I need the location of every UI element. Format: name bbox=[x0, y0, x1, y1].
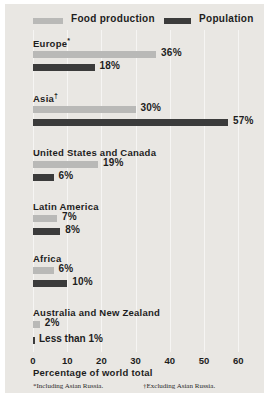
bar-value-label: 6% bbox=[59, 170, 74, 181]
x-axis-tick-10: 10 bbox=[57, 355, 77, 366]
bar-row: 36% bbox=[33, 51, 264, 60]
less-than-one-percent-label: Less than 1% bbox=[39, 333, 103, 344]
bar-food-production bbox=[33, 321, 40, 328]
x-axis-title: Percentage of world total bbox=[33, 367, 153, 378]
bar-row: 57% bbox=[33, 119, 264, 128]
bar-value-label: 6% bbox=[59, 263, 74, 274]
x-axis-tick-50: 50 bbox=[194, 355, 214, 366]
bar-food-production bbox=[33, 215, 57, 222]
less-than-one-percent-tick-icon bbox=[33, 337, 35, 344]
bar-row: 8% bbox=[33, 228, 264, 237]
bar-row: 6% bbox=[33, 174, 264, 183]
population-swatch-icon bbox=[164, 18, 191, 24]
bar-value-label: 30% bbox=[141, 102, 162, 113]
chart-panel: Food production Population Europe*36%18%… bbox=[5, 4, 264, 393]
bar-population bbox=[33, 280, 67, 287]
x-axis-tick-60: 60 bbox=[228, 355, 248, 366]
bar-group-label: Asia† bbox=[33, 92, 58, 104]
x-axis-tick-20: 20 bbox=[91, 355, 111, 366]
bar-value-label: 57% bbox=[233, 115, 254, 126]
bar-group: Europe*36%18% bbox=[33, 37, 264, 77]
bar-value-label: 10% bbox=[72, 276, 93, 287]
gridline-20 bbox=[101, 30, 102, 352]
bar-group: Asia†30%57% bbox=[33, 92, 264, 132]
gridline-60 bbox=[238, 30, 239, 352]
bar-row: 19% bbox=[33, 161, 264, 170]
bar-value-label: 7% bbox=[62, 211, 77, 222]
bar-row: 7% bbox=[33, 215, 264, 224]
bar-group: Australia and New Zealand2%Less than 1% bbox=[33, 307, 264, 347]
legend-label-population: Population bbox=[199, 13, 254, 24]
bar-row: 10% bbox=[33, 280, 264, 289]
bar-row: 30% bbox=[33, 106, 264, 115]
bar-group-label: Europe* bbox=[33, 37, 70, 49]
bar-group: Latin America7%8% bbox=[33, 201, 264, 241]
bar-value-label: 2% bbox=[45, 317, 60, 328]
bar-group-label: United States and Canada bbox=[33, 147, 156, 158]
legend-label-food-production: Food production bbox=[71, 13, 155, 24]
gridline-40 bbox=[170, 30, 171, 352]
x-axis-tick-40: 40 bbox=[160, 355, 180, 366]
bar-value-label: 18% bbox=[100, 60, 121, 71]
bar-population bbox=[33, 228, 60, 235]
gridline-50 bbox=[204, 30, 205, 352]
bar-value-label: 36% bbox=[161, 47, 182, 58]
gridline-10 bbox=[67, 30, 68, 352]
bar-food-production bbox=[33, 106, 136, 113]
bar-population bbox=[33, 64, 95, 71]
bar-food-production bbox=[33, 267, 54, 274]
bar-population bbox=[33, 119, 228, 126]
x-axis-tick-0: 0 bbox=[23, 355, 43, 366]
gridline-0 bbox=[33, 30, 34, 352]
bar-group: Africa6%10% bbox=[33, 253, 264, 293]
bar-population bbox=[33, 174, 54, 181]
bar-group-label: Africa bbox=[33, 253, 61, 264]
x-axis-tick-30: 30 bbox=[126, 355, 146, 366]
bar-row: 2% bbox=[33, 321, 264, 330]
bar-food-production bbox=[33, 51, 156, 58]
footnote-including-asian-russia: *Including Asian Russia. bbox=[33, 382, 103, 390]
bar-group: United States and Canada19%6% bbox=[33, 147, 264, 187]
bar-row: 6% bbox=[33, 267, 264, 276]
bar-row: 18% bbox=[33, 64, 264, 73]
footnote-excluding-asian-russia: †Excluding Asian Russia. bbox=[143, 382, 215, 390]
food-production-swatch-icon bbox=[33, 18, 63, 24]
gridline-30 bbox=[136, 30, 137, 352]
bar-value-label: 19% bbox=[103, 157, 124, 168]
bar-value-label: 8% bbox=[65, 224, 80, 235]
bar-food-production bbox=[33, 161, 98, 168]
